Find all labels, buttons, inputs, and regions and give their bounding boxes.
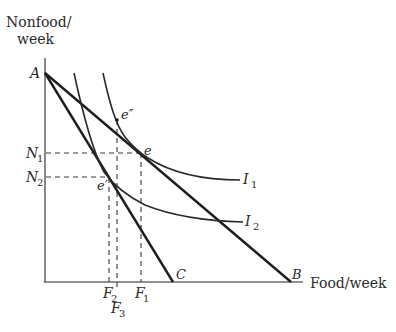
svg-text:I: I [244, 213, 251, 229]
svg-text:1: 1 [143, 293, 149, 304]
indifference-curve-i1 [103, 73, 240, 180]
f3-label: F 3 [110, 300, 125, 319]
point-c-label: C [176, 267, 186, 282]
y-axis-label-line1: Nonfood/ [6, 14, 72, 30]
n1-label: N 1 [25, 145, 43, 164]
n2-label: N 2 [25, 169, 43, 188]
y-axis-label-line2: week [17, 31, 55, 47]
svg-text:1: 1 [251, 179, 257, 190]
svg-text:I: I [242, 171, 249, 187]
point-a-label: A [28, 65, 40, 81]
i1-label: I 1 [242, 171, 257, 190]
svg-text:3: 3 [119, 308, 125, 319]
svg-text:1: 1 [37, 153, 43, 164]
point-e-label: e [144, 143, 152, 158]
i2-label: I 2 [244, 213, 259, 232]
point-b-label: B [291, 267, 302, 282]
point-e-double-prime-label: e″ [121, 107, 134, 122]
point-e-double-prime [115, 118, 119, 122]
f1-label: F 1 [134, 285, 149, 304]
point-e-prime-label: e′ [97, 178, 108, 193]
svg-text:2: 2 [37, 177, 43, 188]
svg-text:2: 2 [253, 221, 259, 232]
x-axis-label: Food/week [310, 275, 387, 291]
indifference-curve-i2 [74, 73, 243, 222]
consumer-choice-diagram: Nonfood/ week Food/week A B C e e′ e″ I … [0, 0, 396, 332]
